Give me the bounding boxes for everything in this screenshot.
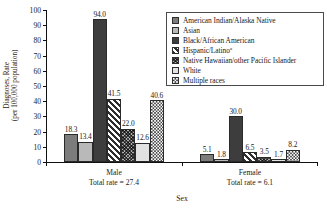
- y-tick-label: 50: [33, 82, 41, 91]
- bar-value-label: 30.0: [229, 107, 242, 116]
- y-tick-label: 30: [33, 112, 41, 121]
- bar: [93, 19, 107, 162]
- legend-swatch-icon: [172, 37, 179, 44]
- legend-footnote-marker: a: [230, 46, 232, 51]
- x-tick: [182, 162, 183, 166]
- legend-item: Hispanic/Latinoa: [172, 46, 320, 56]
- legend-swatch-icon: [172, 47, 179, 54]
- legend: American Indian/Alaska NativeAsianBlack/…: [166, 12, 324, 86]
- legend-item-label: Black/African American: [183, 36, 254, 45]
- y-tick-label: 100: [30, 6, 41, 15]
- bar-value-label: 94.0: [93, 10, 106, 19]
- bar-chart: Diagnoses, Rate (per 100,000 population)…: [0, 0, 327, 216]
- x-tick: [317, 162, 318, 166]
- bar-value-label: 1.7: [274, 150, 283, 159]
- bar: [200, 154, 214, 162]
- bar-value-label: 41.5: [108, 89, 121, 98]
- y-tick-label: 60: [33, 66, 41, 75]
- bar-value-label: 18.3: [65, 125, 78, 134]
- y-tick-label: 10: [33, 142, 41, 151]
- x-group-label: FemaleTotal rate = 6.1: [227, 168, 273, 188]
- legend-swatch-icon: [172, 27, 179, 34]
- legend-item: Multiple races: [172, 76, 320, 86]
- bar-value-label: 3.5: [260, 147, 269, 156]
- legend-item-label: American Indian/Alaska Native: [183, 16, 276, 25]
- y-tick-label: 40: [33, 97, 41, 106]
- x-group-name: Male: [89, 168, 139, 178]
- bar: [257, 157, 271, 162]
- y-axis-title-line2: (per 100,000 population): [12, 49, 20, 121]
- y-tick-label: 0: [37, 158, 41, 167]
- legend-item: Asian: [172, 26, 320, 36]
- bar: [286, 150, 300, 162]
- y-tick-label: 70: [33, 51, 41, 60]
- legend-item: Black/African American: [172, 36, 320, 46]
- bar: [229, 116, 243, 162]
- bar-value-label: 13.4: [79, 132, 92, 141]
- legend-swatch-icon: [172, 17, 179, 24]
- bar: [150, 100, 164, 162]
- bar: [78, 142, 92, 162]
- bar: [64, 134, 78, 162]
- legend-swatch-icon: [172, 67, 179, 74]
- legend-item: Native Hawaiian/other Pacific Islander: [172, 56, 320, 66]
- bar-value-label: 22.0: [122, 119, 135, 128]
- bar: [271, 159, 285, 162]
- y-axis-title: Diagnoses, Rate (per 100,000 population): [0, 0, 25, 170]
- bar-value-label: 5.1: [203, 145, 212, 154]
- legend-swatch-icon: [172, 77, 179, 84]
- x-axis-title: Sex: [176, 194, 187, 203]
- bar: [214, 159, 228, 162]
- bar: [135, 143, 149, 162]
- y-tick-label: 80: [33, 36, 41, 45]
- bar: [243, 152, 257, 162]
- x-group-label: MaleTotal rate = 27.4: [89, 168, 139, 188]
- legend-item-label: Hispanic/Latinoa: [183, 46, 232, 55]
- bar: [107, 99, 121, 162]
- legend-item-label: Native Hawaiian/other Pacific Islander: [183, 56, 296, 65]
- x-group-total-rate: Total rate = 27.4: [89, 178, 139, 188]
- bar: [121, 129, 135, 162]
- bar-value-label: 12.6: [136, 133, 149, 142]
- x-group-total-rate: Total rate = 6.1: [227, 178, 273, 188]
- y-axis-title-line1: Diagnoses, Rate: [4, 49, 12, 121]
- legend-item-label: White: [183, 66, 201, 75]
- y-tick-label: 20: [33, 127, 41, 136]
- legend-item: White: [172, 66, 320, 76]
- legend-swatch-icon: [172, 57, 179, 64]
- y-tick-label: 90: [33, 21, 41, 30]
- x-tick: [46, 162, 47, 166]
- bar-value-label: 6.5: [246, 143, 255, 152]
- legend-item-label: Multiple races: [183, 76, 225, 85]
- x-group-name: Female: [227, 168, 273, 178]
- bar-value-label: 8.2: [288, 140, 297, 149]
- legend-item: American Indian/Alaska Native: [172, 16, 320, 26]
- bar-value-label: 1.8: [217, 150, 226, 159]
- legend-item-label: Asian: [183, 26, 200, 35]
- bar-value-label: 40.6: [151, 91, 164, 100]
